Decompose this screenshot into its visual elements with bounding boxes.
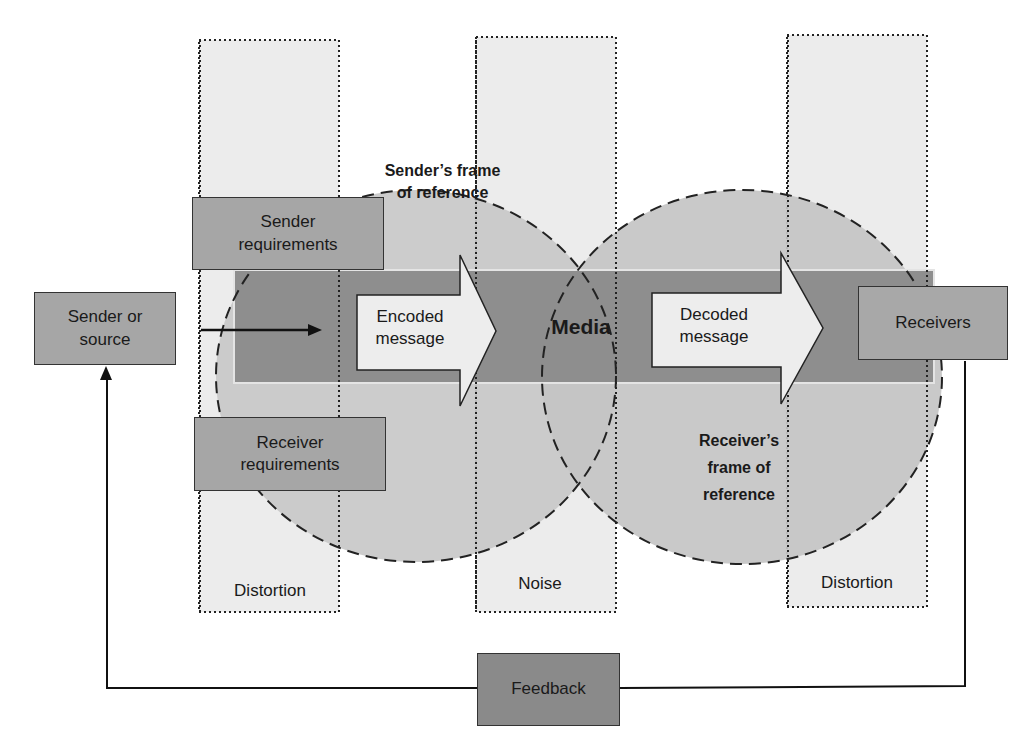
receiver-requirements-box[interactable]: Receiver requirements [194,417,386,491]
decoded-message-label: Decoded message [658,304,770,348]
feedback-arrowhead-icon [100,366,112,380]
noise-label: Noise [500,573,580,595]
receivers-box[interactable]: Receivers [858,286,1008,360]
distortion-label-left: Distortion [205,580,335,602]
sender-or-source-box[interactable]: Sender or source [34,292,176,365]
media-label: Media [536,313,626,340]
sender-frame-of-reference-label: Sender’s frame of reference [370,160,515,203]
encoded-message-label: Encoded message [360,306,460,350]
receiver-frame-of-reference-label: Receiver’s frame of reference [684,427,794,509]
distortion-label-right: Distortion [792,572,922,594]
diagram-canvas [0,0,1034,755]
feedback-box[interactable]: Feedback [477,653,620,726]
sender-requirements-box[interactable]: Sender requirements [192,197,384,270]
